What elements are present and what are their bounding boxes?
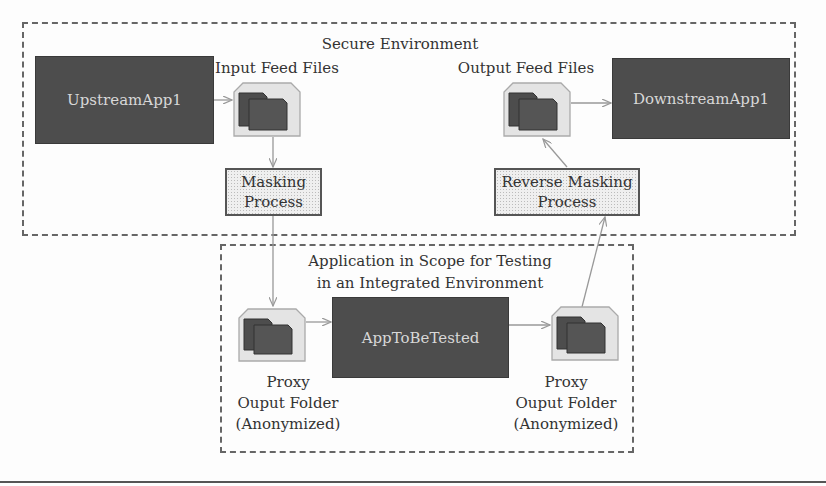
masking-process-line2: Process [244,192,303,212]
bottom-rule [0,481,826,483]
file-stack-icon [551,306,619,361]
reverse-masking-line1: Reverse Masking [501,172,632,192]
app-to-be-tested-box: AppToBeTested [332,297,509,378]
input-feed-files-label: Input Feed Files [215,58,345,78]
downstream-app-label: DownstreamApp1 [633,90,769,108]
file-stack-icon [503,82,571,137]
upstream-app-box: UpstreamApp1 [35,56,214,144]
right-proxy-label-line2: Ouput Folder [496,393,636,413]
upstream-app-label: UpstreamApp1 [67,91,182,109]
output-feed-files-label: Output Feed Files [456,58,596,78]
file-stack-icon [238,308,306,362]
app-to-be-tested-label: AppToBeTested [362,329,480,347]
masking-process-line1: Masking [241,172,306,192]
right-proxy-label-line3: (Anonymized) [496,414,636,434]
downstream-app-box: DownstreamApp1 [612,58,790,139]
right-proxy-label-line1: Proxy [496,372,636,392]
left-proxy-label-line2: Ouput Folder [218,393,358,413]
reverse-masking-process-box: Reverse Masking Process [494,168,640,216]
left-proxy-label-line1: Proxy [218,372,358,392]
left-proxy-label-line3: (Anonymized) [218,414,358,434]
file-stack-icon [233,82,301,137]
masking-process-box: Masking Process [225,168,322,216]
reverse-masking-line2: Process [538,192,597,212]
